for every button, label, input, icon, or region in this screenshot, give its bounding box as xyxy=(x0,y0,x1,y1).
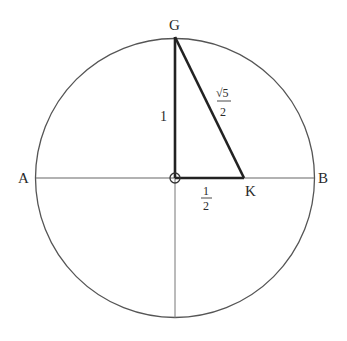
label-G: G xyxy=(169,17,180,33)
label-vertical-length: 1 xyxy=(160,109,167,124)
label-K: K xyxy=(245,183,256,199)
triangle-hypotenuse xyxy=(175,37,244,178)
label-hypotenuse-denominator: 2 xyxy=(220,105,226,119)
label-hypotenuse-numerator: √5 xyxy=(216,86,229,100)
label-A: A xyxy=(18,170,29,186)
label-horizontal-denominator: 2 xyxy=(203,199,209,213)
label-horizontal-numerator: 1 xyxy=(203,184,209,198)
label-B: B xyxy=(318,170,328,186)
circle-diagram: G A B K 1 √5 2 1 2 xyxy=(0,0,347,341)
